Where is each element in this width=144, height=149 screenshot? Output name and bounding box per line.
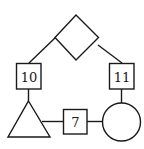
triangle-node	[8, 101, 50, 137]
diamond-node	[55, 15, 99, 60]
circle-node	[103, 103, 141, 141]
box-label-11: 11	[114, 70, 131, 85]
edge-diamond-box11	[98, 45, 122, 63]
shape-diagram: 10 11 7	[0, 0, 144, 149]
box-label-10: 10	[21, 70, 38, 85]
box-label-7: 7	[71, 115, 79, 130]
edge-diamond-box10	[29, 37, 56, 63]
